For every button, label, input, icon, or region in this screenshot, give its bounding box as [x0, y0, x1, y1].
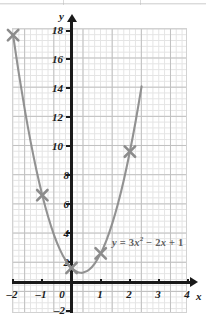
equation-equals: = — [117, 237, 129, 248]
equation-minus: − — [143, 237, 155, 248]
equation-plus: + — [166, 237, 178, 248]
equation-constant: 1 — [178, 237, 183, 248]
equation-label: y = 3x2 − 2x + 1 — [112, 235, 183, 248]
marked-point — [66, 263, 76, 273]
graph-figure: 18 16 14 12 10 8 6 4 2 –2 –2 –1 0 1 2 3 … — [0, 0, 206, 321]
marked-point — [96, 248, 106, 258]
parabola-plot — [0, 0, 206, 321]
